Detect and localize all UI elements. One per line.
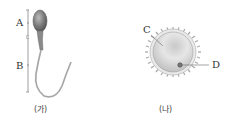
label-c: C <box>143 25 151 35</box>
label-d: D <box>212 60 220 70</box>
label-a: A <box>16 18 23 28</box>
label-b: B <box>16 61 23 71</box>
caption-b: (나) <box>159 106 172 114</box>
egg-cytoplasm <box>153 32 193 72</box>
egg-nucleus <box>178 63 182 67</box>
caption-a: (가) <box>34 106 47 114</box>
sperm-midpiece <box>37 31 43 50</box>
sperm-illustration <box>26 10 71 97</box>
sperm-head <box>33 10 47 32</box>
sperm-tail <box>36 50 71 97</box>
egg-illustration <box>145 27 209 77</box>
bracket-a <box>26 10 29 36</box>
bracket-b <box>26 38 29 92</box>
